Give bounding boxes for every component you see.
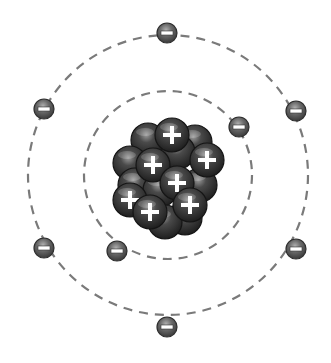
minus-icon <box>233 125 245 129</box>
electron <box>107 241 127 261</box>
atom-illustration <box>0 0 331 363</box>
minus-icon <box>111 249 123 253</box>
electron <box>157 317 177 337</box>
minus-icon <box>161 31 173 35</box>
minus-icon <box>38 246 50 250</box>
electron <box>229 117 249 137</box>
electron <box>34 99 54 119</box>
electron <box>157 23 177 43</box>
atom-diagram: Atom model <box>0 0 331 363</box>
minus-icon <box>38 107 50 111</box>
proton <box>133 195 167 229</box>
proton <box>155 118 189 152</box>
proton <box>173 188 207 222</box>
proton <box>190 143 224 177</box>
nucleus <box>113 118 224 239</box>
electron <box>286 239 306 259</box>
electron <box>34 238 54 258</box>
minus-icon <box>290 109 302 113</box>
minus-icon <box>161 325 173 329</box>
minus-icon <box>290 247 302 251</box>
electron <box>286 101 306 121</box>
